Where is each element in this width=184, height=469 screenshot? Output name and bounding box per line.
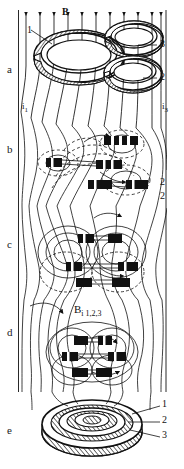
ring-label-1-panel-a: 1 (27, 24, 32, 35)
diagram-svg (0, 0, 184, 469)
panel-e-leader-2: 2 (162, 414, 167, 425)
current-label-i3: i3 (162, 101, 168, 114)
panel-d-bi-label: Bi 1,2,3 (74, 303, 102, 318)
panel-letter-d: d (7, 326, 13, 338)
panel-letter-b: b (7, 143, 13, 155)
panel-c-vortex-cores (66, 234, 138, 287)
panel-letter-e: e (7, 424, 12, 436)
ring-label-3-panel-a: 3 (160, 38, 165, 49)
panel-b-field-lines (21, 112, 167, 206)
current-label-i1: i1 (22, 101, 28, 114)
panel-e-leader-3: 3 (162, 429, 167, 440)
ring-label-2-panel-b: 2 (160, 176, 165, 187)
figure-canvas: B 1 3 2 i1 i3 2 2 Bi 1,2,3 1 2 3 a b c d… (0, 0, 184, 469)
panel-c-field-lines (22, 206, 167, 300)
ring-2-panel-a (104, 56, 162, 93)
ring-label-2-panel-c: 2 (160, 190, 165, 201)
ring-1-panel-a (34, 30, 124, 85)
panel-letter-a: a (7, 63, 12, 75)
panel-letter-c: c (7, 238, 12, 250)
panel-e-leader-1: 1 (162, 398, 167, 409)
panel-e-merged-torus (42, 400, 142, 456)
field-label-b: B (62, 6, 69, 17)
ring-label-2-panel-a: 2 (160, 71, 165, 82)
